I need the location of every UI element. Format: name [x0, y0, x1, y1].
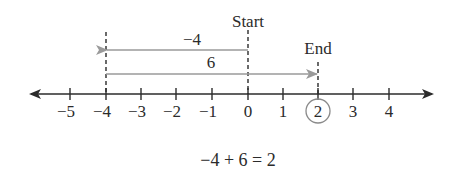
start-label: Start [232, 12, 264, 31]
tick-label: −5 [57, 102, 75, 121]
tick-label: −3 [128, 102, 146, 121]
tick-label-circled: 2 [314, 102, 323, 121]
tick-label: −2 [163, 102, 181, 121]
tick-label: 3 [349, 102, 358, 121]
tick-label: 0 [244, 102, 253, 121]
equation: −4 + 6 = 2 [200, 150, 275, 170]
tick-label: 1 [279, 102, 288, 121]
plus-six-arrow-label: 6 [207, 53, 216, 72]
minus-four-arrow-label: −4 [183, 30, 202, 49]
end-label: End [304, 39, 332, 58]
tick-labels: −5 −4 −3 −2 −1 0 1 2 3 4 [57, 102, 394, 121]
number-line-diagram: Start End −4 6 −5 −4 −3 −2 −1 0 1 2 3 4 … [0, 0, 454, 182]
tick-label: −4 [93, 102, 112, 121]
tick-label: −1 [199, 102, 217, 121]
tick-label: 4 [385, 102, 394, 121]
